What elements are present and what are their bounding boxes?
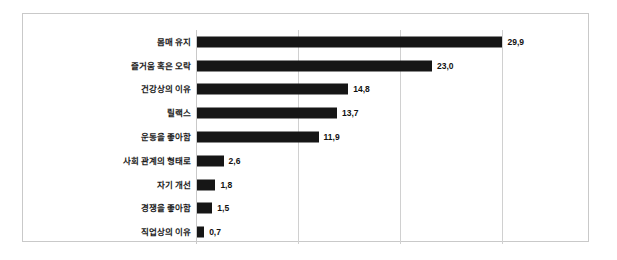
value-label: 1,8 <box>220 179 232 190</box>
bar-row: 릴랙스13,7 <box>196 101 528 125</box>
bar-row: 사회 관계의 형태로2,6 <box>196 149 528 173</box>
bar <box>197 36 502 47</box>
bar-rows-group: 몸매 유지29,9즐거움 혹은 오락23,0건강상의 이유14,8릴랙스13,7… <box>196 30 528 244</box>
bar-row: 자기 개선1,8 <box>196 173 528 197</box>
value-label: 0,7 <box>209 227 221 238</box>
category-label: 자기 개선 <box>157 179 191 190</box>
bar <box>197 60 432 71</box>
bar-row: 직업상의 이유0,7 <box>196 220 528 244</box>
bar-row: 경쟁을 좋아함1,5 <box>196 196 528 220</box>
category-label: 사회 관계의 형태로 <box>123 155 191 166</box>
category-label: 건강상의 이유 <box>141 84 191 95</box>
bar <box>197 203 212 214</box>
category-label: 직업상의 이유 <box>141 227 191 238</box>
category-label: 즐거움 혹은 오락 <box>131 60 191 71</box>
chart-frame-border: 몸매 유지29,9즐거움 혹은 오락23,0건강상의 이유14,8릴랙스13,7… <box>22 13 589 242</box>
bar <box>197 155 224 166</box>
category-label: 운동을 좋아함 <box>141 131 191 142</box>
value-label: 2,6 <box>229 155 241 166</box>
value-label: 13,7 <box>342 108 359 119</box>
value-label: 11,9 <box>324 131 340 142</box>
bar <box>197 179 215 190</box>
plot-area: 몸매 유지29,9즐거움 혹은 오락23,0건강상의 이유14,8릴랙스13,7… <box>196 30 528 244</box>
value-label: 29,9 <box>507 36 524 47</box>
value-label: 23,0 <box>437 60 454 71</box>
category-label: 경쟁을 좋아함 <box>141 203 191 214</box>
bar-row: 즐거움 혹은 오락23,0 <box>196 54 528 78</box>
bar <box>197 227 204 238</box>
bar <box>197 131 319 142</box>
bar <box>197 108 337 119</box>
category-label: 릴랙스 <box>167 108 191 119</box>
bar <box>197 84 348 95</box>
value-label: 14,8 <box>353 84 370 95</box>
value-label: 1,5 <box>217 203 229 214</box>
category-label: 몸매 유지 <box>157 36 191 47</box>
bar-row: 운동을 좋아함11,9 <box>196 125 528 149</box>
chart-figure: 몸매 유지29,9즐거움 혹은 오락23,0건강상의 이유14,8릴랙스13,7… <box>0 0 617 260</box>
bar-row: 몸매 유지29,9 <box>196 30 528 54</box>
bar-row: 건강상의 이유14,8 <box>196 78 528 102</box>
